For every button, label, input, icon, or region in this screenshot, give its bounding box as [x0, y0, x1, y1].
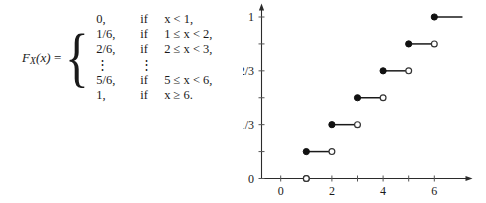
cdf-step-plot-panel: 01/32/310246	[243, 0, 486, 203]
case-condition: x < 1,	[164, 12, 212, 27]
case-value-ellipsis: ⋮	[96, 58, 140, 73]
formula-row: FX(x) = { 0, if x < 1, 1/6, if 1 ≤ x < 2…	[22, 12, 212, 103]
equals-sign: =	[54, 50, 61, 65]
y-axis-tick-label: 1	[248, 10, 254, 24]
cdf-formula-panel: FX(x) = { 0, if x < 1, 1/6, if 1 ≤ x < 2…	[0, 0, 243, 203]
case-if-ellipsis: ⋮	[140, 58, 164, 73]
closed-endpoint-dot	[354, 95, 360, 101]
case-if: if	[140, 42, 164, 57]
y-axis-tick-label: 0	[248, 172, 254, 186]
case-row: 1/6, if 1 ≤ x < 2,	[96, 27, 212, 42]
case-row: 1, if x ≥ 6.	[96, 88, 212, 103]
case-row-ellipsis: ⋮ ⋮	[96, 58, 212, 73]
case-if: if	[140, 73, 164, 88]
closed-endpoint-dot	[406, 41, 412, 47]
closed-endpoint-dot	[431, 14, 437, 20]
cases-table: 0, if x < 1, 1/6, if 1 ≤ x < 2, 2/6, if …	[96, 12, 212, 103]
origin-open-endpoint-dot	[303, 176, 309, 182]
closed-endpoint-dot	[303, 148, 309, 154]
case-value: 0,	[96, 12, 140, 27]
open-endpoint-dot	[380, 95, 386, 101]
x-axis-tick-label: 6	[431, 184, 437, 198]
case-row: 2/6, if 2 ≤ x < 3,	[96, 42, 212, 57]
case-value: 5/6,	[96, 73, 140, 88]
closed-endpoint-dot	[380, 68, 386, 74]
case-row: 0, if x < 1,	[96, 12, 212, 27]
cdf-step-chart: 01/32/310246	[243, 0, 486, 203]
closed-endpoint-dot	[329, 122, 335, 128]
case-if: if	[140, 12, 164, 27]
case-if: if	[140, 88, 164, 103]
y-axis-tick-label: 1/3	[243, 118, 254, 132]
open-endpoint-dot	[406, 68, 412, 74]
x-axis-tick-label: 2	[329, 184, 335, 198]
case-if: if	[140, 27, 164, 42]
case-condition: 5 ≤ x < 6,	[164, 73, 212, 88]
open-endpoint-dot	[329, 149, 335, 155]
open-endpoint-dot	[355, 122, 361, 128]
function-label: FX(x) =	[22, 50, 64, 66]
case-condition-ellipsis	[164, 58, 212, 73]
case-condition: x ≥ 6.	[164, 88, 212, 103]
x-axis-arrowhead	[466, 176, 473, 181]
case-value: 1,	[96, 88, 140, 103]
case-condition: 2 ≤ x < 3,	[164, 42, 212, 57]
case-row: 5/6, if 5 ≤ x < 6,	[96, 73, 212, 88]
function-name: F	[22, 50, 30, 65]
open-endpoint-dot	[431, 41, 437, 47]
y-axis-arrowhead	[259, 4, 264, 11]
left-brace: {	[65, 27, 89, 88]
case-value: 2/6,	[96, 42, 140, 57]
x-axis-tick-label: 4	[380, 184, 386, 198]
case-value: 1/6,	[96, 27, 140, 42]
x-axis-tick-label: 0	[278, 184, 284, 198]
case-condition: 1 ≤ x < 2,	[164, 27, 212, 42]
function-argument: (x)	[36, 50, 51, 65]
y-axis-tick-label: 2/3	[243, 64, 254, 78]
figure-container: FX(x) = { 0, if x < 1, 1/6, if 1 ≤ x < 2…	[0, 0, 486, 203]
